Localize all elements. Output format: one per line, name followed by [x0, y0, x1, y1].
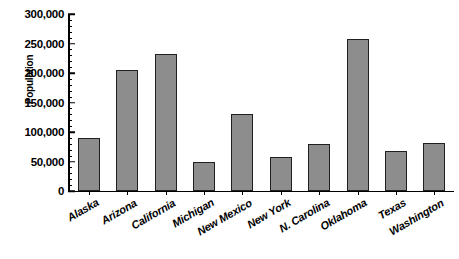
bar: [231, 114, 253, 191]
bar: [423, 143, 445, 191]
bar: [385, 151, 407, 191]
x-axis-tick-label: California: [129, 196, 177, 231]
bar: [78, 138, 100, 191]
x-axis-tick: [396, 192, 397, 195]
bar: [116, 70, 138, 191]
x-axis-tick-label: Alaska: [65, 196, 101, 224]
y-axis-tick-label: 150,000: [0, 97, 64, 109]
x-axis-tick: [319, 192, 320, 195]
x-axis-tick: [204, 192, 205, 195]
y-axis-tick-label: 250,000: [0, 38, 64, 50]
y-axis-tick-label: 100,000: [0, 126, 64, 138]
x-axis-tick-labels: AlaskaArizonaCaliforniaMichiganNew Mexic…: [0, 192, 459, 259]
bar: [193, 162, 215, 191]
x-axis-tick: [127, 192, 128, 195]
y-axis-tick-label: 200,000: [0, 67, 64, 79]
plot-area: [70, 14, 454, 191]
bar: [308, 144, 330, 191]
x-axis-tick: [434, 192, 435, 195]
y-axis-tick-label: 300,000: [0, 8, 64, 20]
x-axis-tick: [242, 192, 243, 195]
x-axis-tick: [358, 192, 359, 195]
x-axis-tick: [166, 192, 167, 195]
bar: [155, 54, 177, 191]
bar-chart: Population 050,000100,000150,000200,0002…: [0, 0, 459, 259]
y-axis-tick-label: 50,000: [0, 156, 64, 168]
x-axis-tick: [281, 192, 282, 195]
bar: [270, 157, 292, 191]
x-axis-tick: [89, 192, 90, 195]
bar: [347, 39, 369, 191]
